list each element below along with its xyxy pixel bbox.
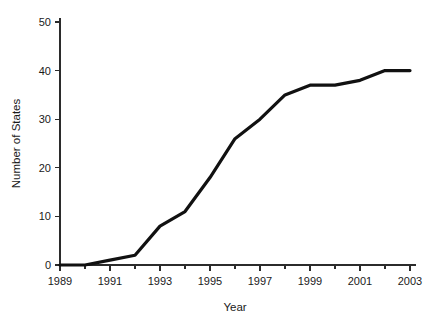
x-tick-label: 1995	[198, 275, 222, 287]
x-axis: 19891991199319951997199920012003	[48, 265, 422, 287]
y-tick-label: 10	[39, 210, 51, 222]
x-tick-label: 1989	[48, 275, 72, 287]
x-tick-label: 2001	[348, 275, 372, 287]
y-axis: 01020304050	[39, 16, 60, 271]
y-tick-label: 30	[39, 113, 51, 125]
y-axis-title: Number of States	[10, 99, 22, 189]
x-tick-label: 1991	[98, 275, 122, 287]
x-tick-label: 1993	[148, 275, 172, 287]
y-tick-label: 40	[39, 65, 51, 77]
data-series-line	[60, 71, 410, 265]
y-tick-label: 20	[39, 162, 51, 174]
line-chart: 01020304050 1989199119931995199719992001…	[0, 0, 440, 324]
chart-container: 01020304050 1989199119931995199719992001…	[0, 0, 440, 324]
y-tick-label: 50	[39, 16, 51, 28]
x-tick-label: 2003	[398, 275, 422, 287]
x-axis-title: Year	[223, 301, 246, 313]
x-tick-label: 1997	[248, 275, 272, 287]
y-tick-label: 0	[45, 259, 51, 271]
x-tick-label: 1999	[298, 275, 322, 287]
